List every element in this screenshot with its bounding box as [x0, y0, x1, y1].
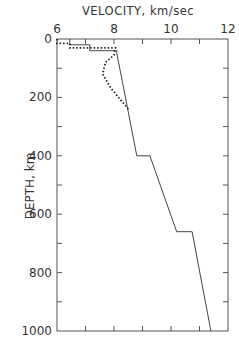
x-axis-title: VELOCITY, km/sec [82, 4, 194, 18]
velocity-depth-chart: VELOCITY, km/sec 681012 0200400600800100… [0, 0, 239, 344]
y-tick-label: 200 [29, 90, 52, 104]
solid-velocity-line [70, 39, 211, 331]
x-tick-label: 12 [220, 22, 235, 36]
x-tick-labels: 681012 [53, 22, 235, 36]
x-tick-label: 10 [163, 22, 178, 36]
x-tick-label: 8 [110, 22, 118, 36]
y-tick-label: 800 [29, 266, 52, 280]
x-tick-label: 6 [53, 22, 61, 36]
y-tick-label: 0 [44, 32, 52, 46]
y-tick-label: 1000 [21, 324, 52, 338]
dotted-velocity-line [57, 39, 128, 109]
y-axis-title: DEPTH, km [23, 153, 37, 220]
